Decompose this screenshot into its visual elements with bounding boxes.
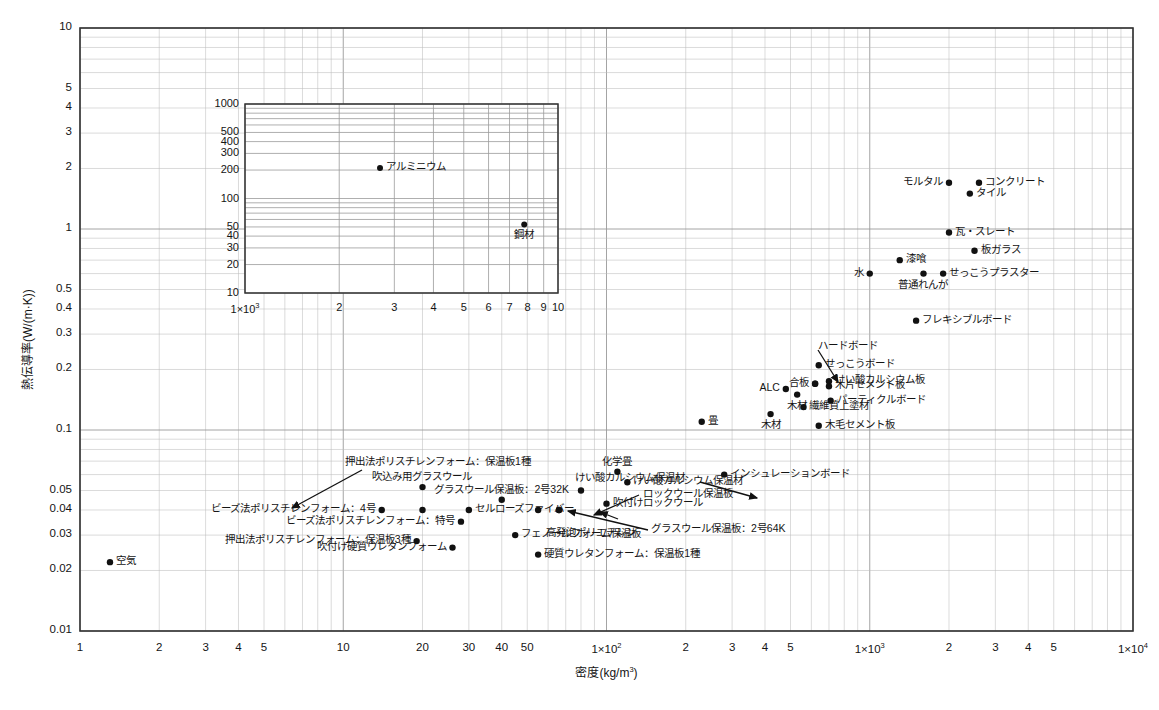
data-point <box>913 317 919 323</box>
point-label: 木材 <box>761 419 781 430</box>
point-label: 化学畳 <box>602 456 632 467</box>
data-point <box>812 380 818 386</box>
data-point <box>946 179 952 185</box>
x-axis-tick-label: 4 <box>762 641 768 653</box>
data-point <box>603 500 609 506</box>
y-axis-tick-label: 2 <box>66 160 72 172</box>
x-axis-tick-label: 40 <box>495 641 508 653</box>
y-axis-title: 熱伝導率(W/(m·K)) <box>18 289 35 390</box>
annotation-label: ハードボード <box>818 340 878 351</box>
inset-x-axis-tick-label: 4 <box>430 301 436 313</box>
x-axis-tick-label: 20 <box>416 641 429 653</box>
y-axis-tick-label: 0.1 <box>56 422 72 434</box>
inset-x-axis-tick-label: 2 <box>336 301 342 313</box>
inset-data-point <box>377 165 383 171</box>
y-axis-tick-label: 0.02 <box>50 562 72 574</box>
data-point <box>466 507 472 513</box>
data-point <box>816 423 822 429</box>
y-axis-tick-label: 0.4 <box>56 301 72 313</box>
inset-x-axis-tick-label: 10 <box>552 301 564 313</box>
point-label: 空気 <box>116 555 136 566</box>
data-point <box>867 270 873 276</box>
x-axis-tick-label: 1×102 <box>591 641 621 655</box>
inset-y-axis-tick-label: 200 <box>221 163 239 175</box>
point-label: 硬質ウレタンフォーム：保温板1種 <box>544 548 700 559</box>
data-point <box>940 270 946 276</box>
x-axis-tick-label: 5 <box>261 641 267 653</box>
annotation-label: グラスウール保温板：2号64K <box>651 523 786 534</box>
data-point <box>794 391 800 397</box>
point-label: インシュレーションボード <box>730 468 850 479</box>
point-label: ALC <box>759 382 779 393</box>
point-label: フレキシブルボード <box>922 314 1012 325</box>
y-axis-tick-label: 0.3 <box>56 326 72 338</box>
y-axis-tick-label: 5 <box>66 81 72 93</box>
inset-x-axis-tick-label: 5 <box>461 301 467 313</box>
inset-y-axis-tick-label: 500 <box>221 125 239 137</box>
x-axis-tick-label: 4 <box>1025 641 1031 653</box>
point-label: ビーズ法ポリスチレンフォーム：特号 <box>286 515 455 526</box>
point-label: 水 <box>854 267 864 278</box>
x-axis-tick-label: 1×104 <box>1118 641 1148 655</box>
inset-x-axis-tick-label: 9 <box>541 301 547 313</box>
inset-x-axis-tick-label: 3 <box>391 301 397 313</box>
inset-y-axis-tick-label: 300 <box>221 146 239 158</box>
point-label: せっこうボード <box>825 358 895 369</box>
annotation-label: 押出法ポリスチレンフォーム：保温板1種 <box>345 456 531 467</box>
x-axis-tick-label: 1 <box>77 641 83 653</box>
chart-svg <box>0 0 1159 710</box>
inset-x-axis-tick-label: 6 <box>485 301 491 313</box>
point-label: 吹付け硬質ウレタンフォーム <box>317 541 447 552</box>
point-label: 板ガラス <box>981 244 1021 255</box>
inset-y-axis-tick-label: 50 <box>227 220 239 232</box>
point-label: せっこうプラスター <box>949 267 1039 278</box>
point-label: 吹込み用グラスウール <box>372 471 472 482</box>
x-axis-tick-label: 10 <box>337 641 350 653</box>
x-axis-tick-label: 2 <box>156 641 162 653</box>
data-point <box>971 247 977 253</box>
point-label: ビーズ法ポリスチレンフォーム：4号 <box>211 503 376 514</box>
data-point <box>946 229 952 235</box>
y-axis-tick-label: 1 <box>66 221 72 233</box>
x-axis-tick-label: 30 <box>462 641 475 653</box>
inset-y-axis-tick-label: 30 <box>227 241 239 253</box>
inset-y-axis-tick-label: 20 <box>227 258 239 270</box>
point-label: モルタル <box>903 176 943 187</box>
y-axis-tick-label: 0.01 <box>50 623 72 635</box>
chart-canvas: 空気押出法ポリスチレンフォーム：保温板3種吹付け硬質ウレタンフォームビーズ法ポリ… <box>0 0 1159 710</box>
annotation-label: ロックウール保温板 <box>643 488 733 499</box>
data-point <box>512 532 518 538</box>
y-axis-tick-label: 0.03 <box>50 527 72 539</box>
data-point <box>107 559 113 565</box>
x-axis-tick-label: 1×103 <box>855 641 885 655</box>
annotation-label: けい酸カルシウム保温材 <box>575 472 685 483</box>
y-axis-tick-label: 0.05 <box>50 483 72 495</box>
inset-point-label: 鋼材 <box>514 229 534 240</box>
point-label: コンクリート <box>985 176 1045 187</box>
data-point <box>578 487 584 493</box>
data-point <box>816 362 822 368</box>
y-axis-tick-label: 0.04 <box>50 502 72 514</box>
inset-x-axis-tick-label: 1×103 <box>231 301 260 315</box>
point-label: パーティクルボード <box>837 394 926 405</box>
x-axis-tick-label: 4 <box>235 641 241 653</box>
y-axis-tick-label: 0.5 <box>56 282 72 294</box>
inset-y-axis-tick-label: 10 <box>227 286 239 298</box>
data-point <box>897 257 903 263</box>
inset-x-axis-tick-label: 7 <box>506 301 512 313</box>
data-point <box>379 507 385 513</box>
point-label: 木片セメント板 <box>835 379 905 390</box>
point-label: 畳 <box>708 415 718 426</box>
data-point <box>449 544 455 550</box>
point-label: 合板 <box>789 377 809 388</box>
annotation-label: 高発泡ポリエチレン <box>546 527 636 538</box>
x-axis-tick-label: 5 <box>787 641 793 653</box>
data-point <box>419 484 425 490</box>
data-point <box>826 383 832 389</box>
data-point <box>920 270 926 276</box>
point-label: 木材 <box>787 400 807 411</box>
point-label: 普通れんが <box>898 279 948 290</box>
y-axis-tick-label: 3 <box>66 125 72 137</box>
point-label: グラスウール保温板：2号32K <box>434 484 569 495</box>
inset-x-axis-tick-label: 8 <box>525 301 531 313</box>
